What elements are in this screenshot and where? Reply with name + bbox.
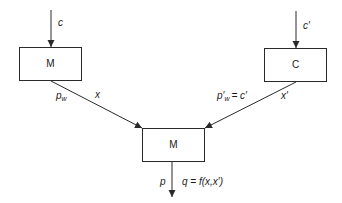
node-bottom-label: M: [169, 139, 177, 150]
input-label-left: c: [58, 17, 63, 28]
node-right-c: C: [265, 49, 327, 82]
edge-right-to-bottom: [205, 82, 296, 128]
node-bottom-m: M: [143, 129, 205, 162]
output-qty-label: q = f(x,x′): [182, 176, 223, 187]
diagram-canvas: c c′ M C M pw x p′w= c′ x′ p q = f(x,x′): [0, 0, 342, 203]
input-label-right: c′: [303, 20, 311, 31]
node-left-m: M: [20, 48, 82, 81]
node-right-label: C: [292, 59, 299, 70]
node-left-label: M: [46, 58, 54, 69]
edge-right-qty-label: x′: [280, 90, 289, 101]
edge-right-price-label: p′w= c′: [216, 90, 248, 102]
output-price-label: p: [159, 176, 166, 187]
edge-left-qty-label: x: [94, 89, 101, 100]
edge-left-price-label: pw: [55, 90, 68, 102]
